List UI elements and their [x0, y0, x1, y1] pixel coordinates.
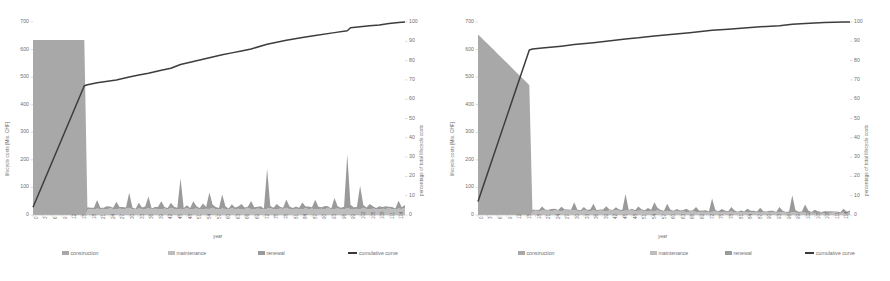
- legend-item-construction[interactable]: construction: [62, 250, 98, 256]
- x-tick-label: 75: [720, 213, 725, 218]
- plot-area: [0, 0, 445, 281]
- y-tick-label: 600: [9, 47, 29, 52]
- x-tick-label: 87: [314, 213, 319, 218]
- x-tick-label: 84: [749, 213, 754, 218]
- legend-item-renewal[interactable]: renewal: [258, 250, 285, 256]
- x-tick-label: 0: [35, 216, 40, 219]
- x-tick-label: 93: [333, 213, 338, 218]
- x-tick-label: 51: [643, 213, 648, 218]
- legend-label: renewal: [734, 250, 752, 256]
- y-tick-label: 400: [9, 102, 29, 107]
- y-tick-label: 500: [9, 74, 29, 79]
- x-tick-label: 48: [189, 213, 194, 218]
- x-tick-label: 57: [218, 213, 223, 218]
- x-tick-label: 114: [400, 211, 405, 218]
- y-axis-title: lifecycle costs [Mio. CHF]: [5, 122, 10, 176]
- x-tick-label: 27: [121, 213, 126, 218]
- legend-item-maintenance[interactable]: maintenance: [168, 250, 206, 256]
- x-tick-label: 27: [566, 213, 571, 218]
- y-tick-label: 0: [454, 212, 474, 217]
- legend-label: construction: [71, 250, 99, 256]
- x-tick-label: 0: [480, 216, 485, 219]
- x-tick-label: 75: [275, 213, 280, 218]
- x-axis-title: year: [213, 234, 222, 239]
- y2-tick-label: 80: [409, 58, 425, 63]
- x-tick-label: 3: [44, 216, 49, 219]
- y2-tick-label: 100: [409, 19, 425, 24]
- y2-tick-label: 60: [409, 96, 425, 101]
- x-tick-label: 81: [295, 213, 300, 218]
- x-tick-label: 12: [518, 213, 523, 218]
- x-tick-label: 18: [93, 213, 98, 218]
- y-tick-label: 300: [9, 129, 29, 134]
- legend-swatch: [725, 251, 732, 255]
- legend-line-marker: [805, 252, 814, 254]
- x-tick-label: 114: [845, 211, 850, 218]
- legend-swatch: [258, 251, 265, 255]
- legend-item-renewal[interactable]: renewal: [725, 250, 752, 256]
- x-tick-label: 72: [711, 213, 716, 218]
- x-tick-label: 93: [778, 213, 783, 218]
- chart-svg: [445, 0, 890, 281]
- y-tick-label: 200: [454, 157, 474, 162]
- y2-tick-label: 80: [854, 58, 870, 63]
- x-tick-label: 21: [547, 213, 552, 218]
- y-tick-label: 100: [9, 184, 29, 189]
- x-tick-label: 105: [817, 211, 822, 219]
- legend-item-construction[interactable]: construction: [518, 250, 554, 256]
- chart-legend: constructionmaintenancerenewalcumulative…: [445, 250, 890, 260]
- legend-line-marker: [348, 252, 357, 254]
- y-tick-label: 400: [454, 102, 474, 107]
- y2-tick-label: 60: [854, 96, 870, 101]
- legend-item-maintenance[interactable]: maintenance: [650, 250, 688, 256]
- x-tick-label: 96: [788, 213, 793, 218]
- y-tick-label: 300: [454, 129, 474, 134]
- x-tick-label: 45: [179, 213, 184, 218]
- plot-area: [445, 0, 890, 281]
- y2-tick-label: 50: [409, 116, 425, 121]
- x-tick-label: 30: [576, 213, 581, 218]
- legend-swatch: [518, 251, 525, 255]
- x-tick-label: 42: [169, 213, 174, 218]
- legend-label: construction: [527, 250, 555, 256]
- y2-tick-label: 0: [409, 212, 425, 217]
- x-tick-label: 36: [150, 213, 155, 218]
- x-tick-label: 45: [624, 213, 629, 218]
- x-tick-label: 39: [605, 213, 610, 218]
- legend-item-cumulative-curve[interactable]: cumulative curve: [805, 250, 855, 256]
- x-tick-label: 90: [768, 213, 773, 218]
- x-tick-label: 111: [391, 212, 396, 219]
- y2-tick-label: 50: [854, 116, 870, 121]
- x-tick-label: 78: [730, 213, 735, 218]
- y-tick-label: 200: [9, 157, 29, 162]
- x-tick-label: 102: [362, 211, 367, 219]
- legend-item-cumulative-curve[interactable]: cumulative curve: [348, 250, 398, 256]
- y2-tick-label: 90: [409, 38, 425, 43]
- x-tick-label: 63: [237, 213, 242, 218]
- x-tick-label: 21: [102, 213, 107, 218]
- x-tick-label: 9: [509, 216, 514, 219]
- y2-tick-label: 90: [854, 38, 870, 43]
- x-tick-label: 57: [663, 213, 668, 218]
- legend-label: maintenance: [659, 250, 689, 256]
- legend-label: renewal: [267, 250, 285, 256]
- renewal-area: [33, 154, 405, 215]
- x-tick-label: 6: [54, 216, 59, 219]
- x-tick-label: 24: [557, 213, 562, 218]
- x-tick-label: 33: [141, 213, 146, 218]
- x-tick-label: 48: [634, 213, 639, 218]
- x-tick-label: 42: [614, 213, 619, 218]
- x-tick-label: 111: [836, 212, 841, 219]
- x-tick-label: 78: [285, 213, 290, 218]
- x-tick-label: 66: [691, 213, 696, 218]
- x-tick-label: 108: [381, 211, 386, 219]
- cumulative-curve-line: [33, 22, 405, 207]
- x-tick-label: 36: [595, 213, 600, 218]
- x-tick-label: 63: [682, 213, 687, 218]
- legend-swatch: [168, 251, 175, 255]
- y-axis-title: lifecycle costs [Mio. CHF]: [450, 122, 455, 176]
- x-tick-label: 54: [208, 213, 213, 218]
- x-tick-label: 66: [246, 213, 251, 218]
- y-tick-label: 100: [454, 184, 474, 189]
- figure-container: 7006005004003002001000100908070605040302…: [0, 0, 890, 281]
